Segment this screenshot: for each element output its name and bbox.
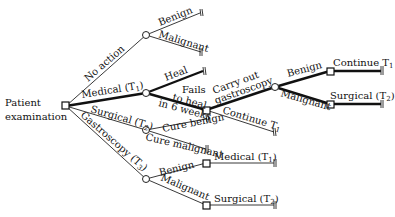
decision-node-gastro-benign xyxy=(327,68,334,75)
decision-node-g-benign xyxy=(203,160,210,167)
terminal-marker xyxy=(202,9,203,16)
chance-node-no-action xyxy=(143,32,150,39)
terminal-marker xyxy=(203,67,204,75)
terminal-marker xyxy=(205,67,206,75)
terminal-marker xyxy=(200,9,201,16)
chance-node-medical xyxy=(143,90,150,97)
decision-node-g-malignant xyxy=(203,202,210,209)
label-continue-t1-top: Continue T1 xyxy=(333,57,393,70)
decision-tree-diagram: Patient examination xyxy=(0,0,395,217)
label-cure-malignant: Cure malignant xyxy=(145,131,225,160)
label-surgical-t2-top: Surgical (T2) xyxy=(330,90,395,103)
chance-node-gastroscopy xyxy=(143,176,150,183)
label-gastro-malignant: Malignant xyxy=(279,87,332,112)
label-g-medical: Medical (T1) xyxy=(214,151,277,164)
label-heal: Heal xyxy=(163,64,189,83)
label-no-action-malignant: Malignant xyxy=(157,28,210,54)
label-no-action-benign: Benign xyxy=(157,4,195,28)
decision-node-root xyxy=(62,102,69,109)
root-label-line2: examination xyxy=(5,111,68,122)
label-g-malignant: Malignant xyxy=(159,172,211,202)
label-g-surgical: Surgical (T2) xyxy=(214,193,279,206)
label-no-action: No action xyxy=(82,43,127,84)
label-gastro-benign: Benign xyxy=(286,59,324,79)
root-label-line1: Patient xyxy=(5,97,41,108)
label-continue-t1-mid: Continue T1 xyxy=(221,104,283,134)
